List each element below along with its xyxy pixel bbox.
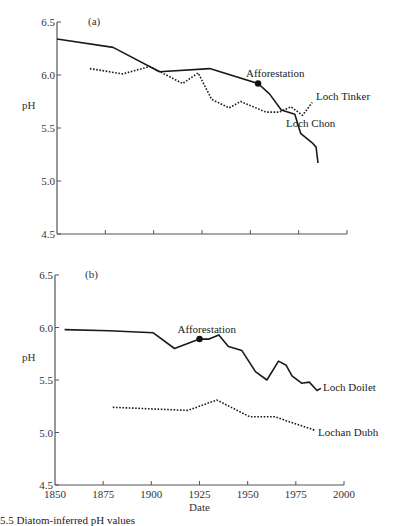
series-loch-chon-line [57, 39, 318, 163]
y-axis-title: pH [22, 99, 36, 111]
y-tick-label: 6.5 [39, 269, 53, 281]
x-tick-label: 1850 [44, 488, 67, 500]
x-tick-label: 1975 [285, 488, 308, 500]
panel-label: (b) [85, 268, 98, 281]
y-tick-label: 5.5 [41, 122, 55, 134]
x-tick-label: 1875 [92, 488, 115, 500]
afforestation-annotation: Afforestation [246, 67, 305, 79]
y-tick-label: 6.5 [41, 16, 55, 28]
series-label-loch-chon: Loch Chon [286, 117, 336, 129]
chart-panel-a: 6.56.05.55.04.5pH(a)Loch ChonLoch Tinker… [22, 15, 370, 240]
afforestation-marker-icon [255, 80, 261, 86]
x-tick-label: 1950 [237, 488, 260, 500]
figure-caption: 5.5 Diatom-inferred pH values [0, 514, 135, 526]
panel-label: (a) [88, 15, 101, 28]
y-tick-label: 5.0 [39, 427, 53, 439]
x-tick-label: 1900 [140, 488, 163, 500]
series-loch-doilet-line [65, 330, 321, 391]
y-tick-label: 6.0 [41, 69, 55, 81]
x-tick-label: 1925 [189, 488, 212, 500]
series-label-loch-doilet: Loch Doilet [323, 381, 376, 393]
x-tick-label: 2000 [333, 488, 356, 500]
y-tick-label: 5.0 [41, 175, 55, 187]
series-label-loch-tinker: Loch Tinker [316, 90, 370, 102]
y-tick-label: 6.0 [39, 322, 53, 334]
x-axis-title: Date [189, 501, 210, 513]
afforestation-annotation: Afforestation [178, 323, 237, 335]
afforestation-marker-icon [196, 336, 202, 342]
series-lochan-dubh-line [113, 400, 315, 430]
y-tick-label: 4.5 [41, 228, 55, 240]
chart-panel-b: 6.56.05.55.04.51850187519001925195019752… [22, 268, 379, 513]
y-axis-title: pH [22, 351, 36, 363]
series-label-lochan-dubh: Lochan Dubh [318, 426, 379, 438]
y-tick-label: 5.5 [39, 374, 53, 386]
figure: 6.56.05.55.04.5pH(a)Loch ChonLoch Tinker… [0, 0, 393, 526]
